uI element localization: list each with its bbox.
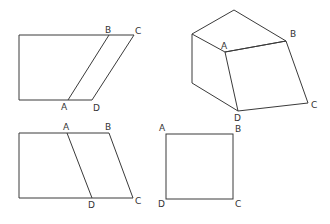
vertex-label-d: D — [93, 103, 100, 113]
vertex-label-a: A — [61, 102, 68, 112]
top-face — [192, 10, 286, 52]
vertex-label-d: D — [158, 199, 165, 209]
square-abcd — [166, 134, 233, 199]
front-face-abcd — [225, 41, 308, 111]
edge-ad — [67, 133, 92, 198]
figure-top-right: A B C D — [192, 10, 317, 123]
vertex-label-b: B — [235, 124, 241, 134]
vertex-label-a: A — [63, 122, 70, 132]
vertex-label-b: B — [290, 29, 296, 39]
outer-rectangle — [19, 35, 134, 100]
vertex-label-c: C — [135, 196, 141, 206]
edge-dc — [92, 35, 134, 100]
vertex-label-a: A — [221, 41, 228, 51]
vertex-label-c: C — [311, 100, 317, 110]
vertex-label-c: C — [135, 26, 141, 36]
figure-bottom-right: A B C D — [158, 123, 241, 209]
left-face-edges — [192, 34, 238, 111]
edge-ab — [68, 35, 109, 100]
vertex-label-b: B — [105, 25, 111, 35]
vertex-label-b: B — [105, 122, 111, 132]
vertex-label-d: D — [234, 113, 241, 123]
vertex-label-c: C — [235, 199, 241, 209]
edge-bc — [109, 133, 133, 198]
outer-rectangle — [19, 133, 133, 198]
figure-bottom-left: A B C D — [19, 122, 141, 210]
figure-top-left: B C A D — [19, 25, 141, 113]
diagram-canvas: B C A D A B C D A B C D A B C D — [0, 0, 330, 224]
vertex-label-d: D — [88, 200, 95, 210]
vertex-label-a: A — [159, 123, 166, 133]
